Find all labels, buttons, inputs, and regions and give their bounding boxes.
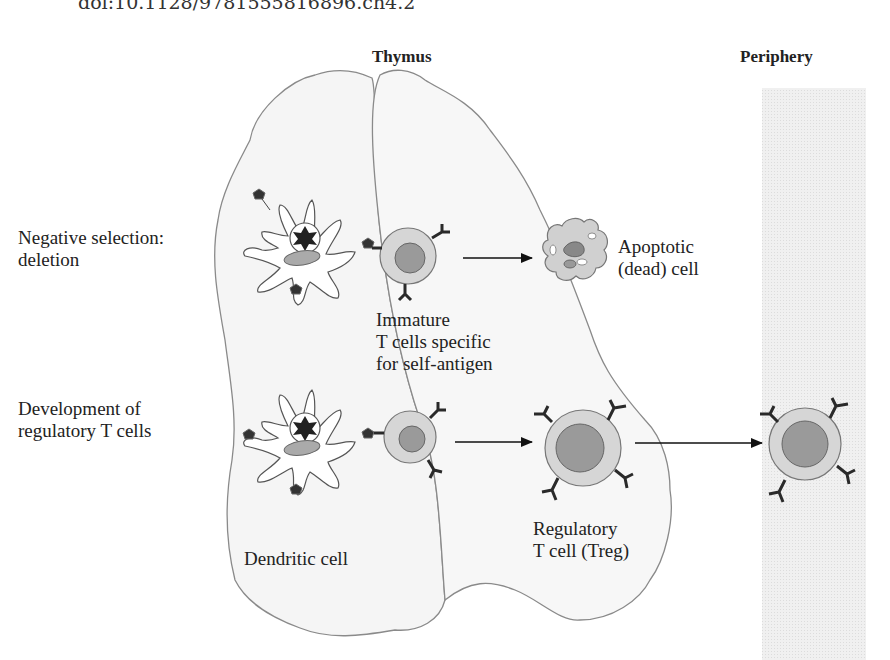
label-dendritic-cell: Dendritic cell xyxy=(244,548,348,570)
periphery-panel xyxy=(762,88,866,660)
label-treg: Regulatory T cell (Treg) xyxy=(533,518,629,562)
label-negative-selection: Negative selection: deletion xyxy=(18,227,164,271)
label-immature-t-cells: Immature T cells specific for self-antig… xyxy=(376,309,493,375)
label-apoptotic-cell: Apoptotic (dead) cell xyxy=(618,236,699,280)
label-treg-development: Development of regulatory T cells xyxy=(18,398,151,442)
apoptotic-cell xyxy=(543,219,608,281)
